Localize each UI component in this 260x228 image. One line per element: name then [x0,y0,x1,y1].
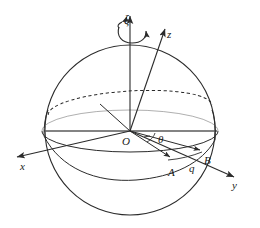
radius-to-tilted-circle [100,104,130,131]
arc-label-q: q [189,163,195,174]
tilted-circle-back-dashed [47,86,212,115]
rotation-arc-tail-icon [118,22,122,28]
rotation-arc-icon [118,27,146,43]
equator-ellipse-front [42,131,218,152]
origin-label: O [122,136,130,147]
z-axis[interactable] [130,29,165,131]
arc-q [168,152,202,160]
axis-label-z: z [167,29,171,40]
axis-label-x: x [20,161,25,172]
ray-to-point-a [130,131,170,157]
theta-angle-tick [144,136,150,137]
angle-label-theta: θ [158,134,163,145]
figure-canvas [0,0,260,228]
y-axis[interactable] [130,131,234,177]
sphere-coordinate-figure: ξ z x y O θ A B q [0,0,260,228]
axis-label-y: y [232,180,237,191]
point-label-b: B [204,155,211,166]
point-label-a: A [168,167,175,178]
x-axis[interactable] [17,131,130,157]
axis-label-xi: ξ [124,14,129,26]
ray-to-point-b [130,131,200,150]
tilted-circle-right-join [212,110,215,140]
